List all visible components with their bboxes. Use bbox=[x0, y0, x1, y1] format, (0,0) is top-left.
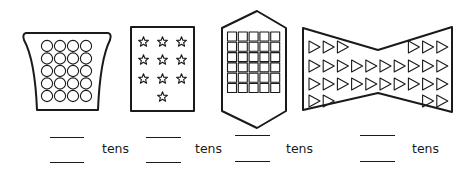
circle-icon bbox=[80, 90, 91, 101]
triangle-icon bbox=[352, 60, 363, 72]
answer-blank-squares-2[interactable] bbox=[235, 161, 270, 162]
group-circles bbox=[23, 33, 110, 110]
square-icon bbox=[238, 32, 247, 41]
triangle-icon bbox=[309, 78, 320, 90]
circle-icon bbox=[41, 65, 52, 76]
answer-blank-squares-1[interactable] bbox=[235, 135, 270, 136]
triangle-icon bbox=[437, 60, 448, 72]
circle-icon bbox=[41, 78, 52, 89]
square-icon bbox=[249, 53, 258, 62]
triangle-icon bbox=[380, 78, 391, 90]
circle-icon bbox=[80, 78, 91, 89]
star-icon bbox=[158, 92, 168, 101]
triangle-icon bbox=[437, 78, 448, 90]
triangle-icon bbox=[437, 95, 448, 107]
triangle-icon bbox=[323, 41, 334, 53]
circle-icon bbox=[54, 40, 65, 51]
square-icon bbox=[271, 73, 280, 82]
answer-blank-stars-2[interactable] bbox=[146, 162, 181, 163]
square-icon bbox=[249, 84, 258, 93]
square-icon bbox=[260, 73, 269, 82]
circle-items bbox=[41, 40, 91, 101]
answer-blank-triangles-1[interactable] bbox=[360, 135, 395, 136]
triangle-icon bbox=[423, 41, 434, 53]
rectangle-outline bbox=[131, 27, 194, 111]
answer-blank-circles-2[interactable] bbox=[50, 162, 84, 163]
answer-blank-stars-1[interactable] bbox=[146, 137, 181, 138]
square-icon bbox=[249, 32, 258, 41]
circle-icon bbox=[67, 40, 78, 51]
circle-icon bbox=[54, 65, 65, 76]
tens-label-triangles: tens bbox=[412, 143, 439, 156]
star-icon bbox=[177, 37, 187, 46]
shapes-canvas bbox=[0, 0, 474, 170]
square-icon bbox=[249, 42, 258, 51]
group-stars bbox=[131, 27, 194, 111]
triangle-icon bbox=[366, 60, 377, 72]
triangle-icon bbox=[408, 60, 419, 72]
square-icon bbox=[228, 63, 237, 72]
circle-icon bbox=[54, 90, 65, 101]
square-icon bbox=[238, 53, 247, 62]
star-icon bbox=[177, 55, 187, 64]
triangle-icon bbox=[337, 41, 348, 53]
circle-icon bbox=[80, 65, 91, 76]
square-icon bbox=[228, 84, 237, 93]
star-icon bbox=[139, 37, 149, 46]
triangle-icon bbox=[337, 60, 348, 72]
triangle-icon bbox=[408, 78, 419, 90]
star-icon bbox=[158, 37, 168, 46]
square-icon bbox=[260, 32, 269, 41]
square-icon bbox=[271, 32, 280, 41]
triangle-icon bbox=[380, 60, 391, 72]
group-triangles bbox=[303, 27, 452, 112]
star-icon bbox=[177, 74, 187, 83]
square-icon bbox=[228, 42, 237, 51]
square-icon bbox=[260, 42, 269, 51]
answer-blank-triangles-2[interactable] bbox=[360, 161, 395, 162]
triangle-icon bbox=[366, 78, 377, 90]
star-icon bbox=[158, 74, 168, 83]
circle-icon bbox=[54, 78, 65, 89]
triangle-icon bbox=[394, 78, 405, 90]
star-icon bbox=[158, 55, 168, 64]
triangle-icon bbox=[323, 78, 334, 90]
square-icon bbox=[238, 73, 247, 82]
triangle-icon bbox=[309, 95, 320, 107]
square-icon bbox=[238, 63, 247, 72]
square-icon bbox=[271, 53, 280, 62]
square-icon bbox=[260, 53, 269, 62]
circle-icon bbox=[54, 53, 65, 64]
triangle-icon bbox=[408, 41, 419, 53]
square-icon bbox=[271, 63, 280, 72]
counting-tens-worksheet: tens tens tens tens bbox=[0, 0, 474, 170]
square-icon bbox=[249, 63, 258, 72]
square-icon bbox=[271, 42, 280, 51]
group-squares bbox=[222, 11, 286, 128]
circle-icon bbox=[41, 90, 52, 101]
circle-icon bbox=[41, 40, 52, 51]
answer-blank-circles-1[interactable] bbox=[50, 137, 84, 138]
triangle-icon bbox=[423, 60, 434, 72]
triangle-icon bbox=[309, 60, 320, 72]
triangle-icon bbox=[309, 41, 320, 53]
square-icon bbox=[238, 42, 247, 51]
square-items bbox=[228, 32, 280, 93]
circle-icon bbox=[80, 40, 91, 51]
square-icon bbox=[260, 63, 269, 72]
triangle-icon bbox=[323, 60, 334, 72]
square-icon bbox=[249, 73, 258, 82]
triangle-icon bbox=[437, 41, 448, 53]
circle-icon bbox=[80, 53, 91, 64]
circle-icon bbox=[67, 78, 78, 89]
triangle-icon bbox=[423, 78, 434, 90]
tens-label-squares: tens bbox=[286, 143, 313, 156]
square-icon bbox=[238, 84, 247, 93]
square-icon bbox=[228, 73, 237, 82]
triangle-icon bbox=[352, 78, 363, 90]
hexagon-outline bbox=[222, 11, 286, 128]
tens-label-stars: tens bbox=[195, 143, 222, 156]
circle-icon bbox=[67, 65, 78, 76]
circle-icon bbox=[67, 90, 78, 101]
triangle-icon bbox=[394, 60, 405, 72]
